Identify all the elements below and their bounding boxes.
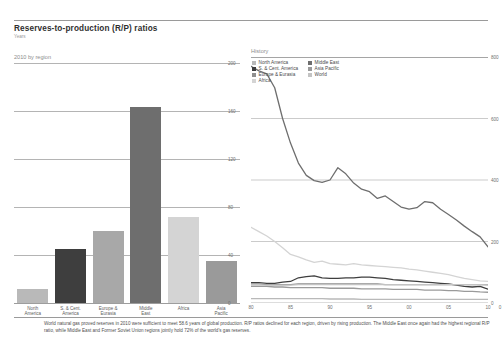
legend-item-s-cent-america[interactable]: S. & Cent. America	[252, 66, 298, 71]
x-label-4: Africa	[165, 306, 203, 317]
footnote-divider	[14, 317, 488, 318]
bar-cell	[165, 63, 203, 303]
legend-swatch-icon	[308, 61, 312, 65]
x-tick-95: 95	[367, 305, 372, 310]
y-tick-40: 40	[228, 253, 233, 258]
x-tick-90: 90	[327, 305, 332, 310]
legend-label: Africa	[259, 78, 271, 83]
y-tick-0: 0	[228, 301, 231, 306]
x-axis-zero-label: 0	[499, 305, 502, 310]
bar-africa[interactable]	[168, 217, 199, 303]
bar-s-cent-america[interactable]	[55, 249, 86, 303]
x-label-2: Europe &Eurasia	[89, 306, 127, 317]
bar-north-america[interactable]	[17, 289, 48, 303]
legend-swatch-icon	[308, 73, 312, 77]
y-tick-80: 80	[228, 205, 233, 210]
legend-column-0: North AmericaS. & Cent. AmericaEurope & …	[252, 60, 298, 83]
legend-item-asia-pacific[interactable]: Asia Pacific	[308, 66, 339, 71]
line-chart-history	[251, 57, 488, 303]
series-line-world	[251, 285, 488, 286]
legend-swatch-icon	[252, 61, 256, 65]
y-tick-600: 600	[491, 116, 499, 121]
bar-chart-bars	[14, 63, 240, 303]
x-label-5: AsiaPacific	[202, 306, 240, 317]
bar-asia-pacific[interactable]	[206, 261, 237, 303]
y-tick-160: 160	[228, 109, 236, 114]
series-line-middle-east	[251, 66, 488, 247]
x-tick-10: 10	[485, 305, 490, 310]
bar-chart-x-axis: NorthAmericaS. & Cent.AmericaEurope &Eur…	[14, 306, 240, 317]
legend-label: S. & Cent. America	[259, 66, 299, 71]
legend-swatch-icon	[308, 67, 312, 71]
bar-cell	[52, 63, 90, 303]
legend-swatch-icon	[252, 79, 256, 83]
y-tick-800: 800	[491, 55, 499, 60]
left-panel-label: 2010 by region	[14, 54, 51, 60]
legend-label: North America	[259, 60, 289, 65]
legend-label: Middle East	[315, 60, 340, 65]
legend-item-world[interactable]: World	[308, 72, 339, 77]
x-tick-05: 05	[446, 305, 451, 310]
report-page: Reserves-to-production (R/P) ratios Year…	[0, 0, 502, 344]
x-tick-85: 85	[288, 305, 293, 310]
y-tick-200: 200	[491, 239, 499, 244]
gridline-0	[14, 303, 240, 304]
bar-cell	[89, 63, 127, 303]
page-subtitle: Years	[14, 34, 26, 39]
legend-item-middle-east[interactable]: Middle East	[308, 60, 339, 65]
legend-item-europe-eurasia[interactable]: Europe & Eurasia	[252, 72, 298, 77]
series-line-asia-pacific	[251, 286, 488, 292]
bar-middle-east[interactable]	[130, 107, 161, 303]
bar-cell	[127, 63, 165, 303]
bar-chart-2010-by-region	[14, 63, 240, 303]
legend-item-africa[interactable]: Africa	[252, 78, 298, 83]
bar-cell	[14, 63, 52, 303]
y-tick-400: 400	[491, 178, 499, 183]
series-line-africa	[251, 227, 488, 281]
legend-swatch-icon	[252, 67, 256, 71]
y-tick-200: 200	[228, 61, 236, 66]
y-tick-120: 120	[228, 157, 236, 162]
x-label-1: S. & Cent.America	[52, 306, 90, 317]
legend-column-1: Middle EastAsia PacificWorld	[308, 60, 339, 83]
legend-label: Europe & Eurasia	[259, 72, 296, 77]
y-tick-0: 0	[491, 301, 494, 306]
x-tick-00: 00	[406, 305, 411, 310]
legend-label: World	[315, 72, 327, 77]
legend-label: Asia Pacific	[315, 66, 339, 71]
line-chart-canvas	[251, 57, 488, 303]
x-label-0: NorthAmerica	[14, 306, 52, 317]
legend-item-north-america[interactable]: North America	[252, 60, 298, 65]
bar-europe-eurasia[interactable]	[93, 231, 124, 303]
header-divider	[14, 20, 488, 21]
chart-legend: North AmericaS. & Cent. AmericaEurope & …	[252, 60, 442, 83]
x-label-3: MiddleEast	[127, 306, 165, 317]
legend-swatch-icon	[252, 73, 256, 77]
series-line-north-america	[251, 299, 488, 300]
x-tick-80: 80	[248, 305, 253, 310]
page-title: Reserves-to-production (R/P) ratios	[14, 24, 158, 33]
bar-cell	[202, 63, 240, 303]
right-panel-label: History	[251, 48, 268, 54]
footnote-text: World natural gas proved reserves in 201…	[44, 321, 492, 334]
